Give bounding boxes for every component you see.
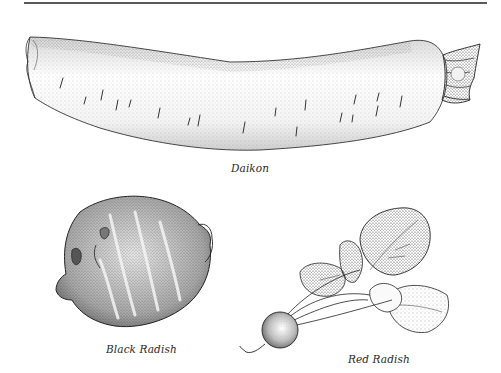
- illustration-canvas: [0, 0, 501, 373]
- daikon-crown: [442, 44, 480, 103]
- caption-daikon: Daikon: [231, 162, 269, 174]
- red-radish-illustration: [240, 208, 449, 353]
- caption-red-radish: Red Radish: [348, 353, 410, 365]
- black-radish-illustration: [56, 196, 213, 326]
- daikon-illustration: [26, 37, 480, 150]
- caption-black-radish: Black Radish: [106, 343, 177, 355]
